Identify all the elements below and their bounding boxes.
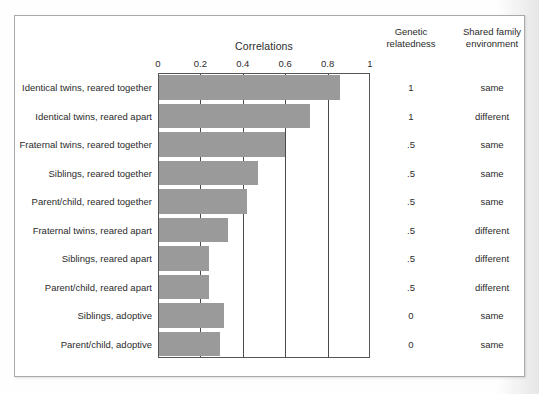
cell-shared-family-environment: different [452, 281, 532, 292]
chart-row: Fraternal twins, reared apart.5different [0, 216, 539, 245]
chart-row: Siblings, adoptive0same [0, 301, 539, 330]
column-header-genetic-relatedness: Genetic relatedness [373, 26, 449, 50]
cell-shared-family-environment: different [452, 253, 532, 264]
column-header-shared-line2: environment [452, 38, 532, 50]
cell-shared-family-environment: same [452, 196, 532, 207]
chart-row: Siblings, reared apart.5different [0, 244, 539, 273]
row-label: Siblings, reared apart [16, 253, 152, 264]
row-label: Siblings, adoptive [16, 310, 152, 321]
cell-genetic-relatedness: 0 [373, 338, 449, 349]
chart-row: Parent/child, reared together.5same [0, 187, 539, 216]
cell-genetic-relatedness: .5 [373, 196, 449, 207]
chart-row: Identical twins, reared together1same [0, 73, 539, 102]
chart-row: Siblings, reared together.5same [0, 159, 539, 188]
cell-shared-family-environment: different [452, 224, 532, 235]
bar [159, 303, 224, 328]
column-header-shared-family-environment: Shared family environment [452, 26, 532, 50]
row-label: Fraternal twins, reared together [16, 139, 152, 150]
column-header-shared-line1: Shared family [452, 26, 532, 38]
bar-track [159, 189, 369, 214]
cell-shared-family-environment: same [452, 167, 532, 178]
bar [159, 332, 220, 357]
bar-track [159, 246, 369, 271]
chart-row: Fraternal twins, reared together.5same [0, 130, 539, 159]
cell-genetic-relatedness: .5 [373, 167, 449, 178]
x-axis-tick-0_4: 0.4 [236, 58, 249, 69]
x-axis-tick-0_2: 0.2 [194, 58, 207, 69]
row-label: Parent/child, reared together [16, 196, 152, 207]
x-axis-tick-0: 0 [155, 58, 160, 69]
chart-rows: Identical twins, reared together1sameIde… [0, 73, 539, 358]
chart-row: Identical twins, reared apart1different [0, 102, 539, 131]
bar [159, 132, 285, 157]
bar-track [159, 161, 369, 186]
bar [159, 189, 247, 214]
bar-track [159, 132, 369, 157]
cell-shared-family-environment: same [452, 139, 532, 150]
bar [159, 161, 258, 186]
bar-track [159, 332, 369, 357]
column-header-genetic-line2: relatedness [373, 38, 449, 50]
row-label: Identical twins, reared together [16, 82, 152, 93]
cell-shared-family-environment: same [452, 338, 532, 349]
cell-genetic-relatedness: .5 [373, 224, 449, 235]
chart-title: Correlations [158, 40, 370, 52]
row-label: Parent/child, adoptive [16, 338, 152, 349]
row-label: Siblings, reared together [16, 167, 152, 178]
bar-track [159, 104, 369, 129]
row-label: Identical twins, reared apart [16, 110, 152, 121]
cell-genetic-relatedness: 0 [373, 310, 449, 321]
row-label: Parent/child, reared apart [16, 281, 152, 292]
bar [159, 218, 228, 243]
cell-shared-family-environment: different [452, 110, 532, 121]
bar [159, 275, 209, 300]
cell-genetic-relatedness: .5 [373, 253, 449, 264]
bar [159, 75, 340, 100]
row-label: Fraternal twins, reared apart [16, 224, 152, 235]
x-axis-tick-1: 1 [367, 58, 372, 69]
bar-track [159, 218, 369, 243]
bar-track [159, 275, 369, 300]
x-axis-tick-0_6: 0.6 [279, 58, 292, 69]
chart-row: Parent/child, adoptive0same [0, 330, 539, 359]
cell-genetic-relatedness: 1 [373, 82, 449, 93]
x-axis-tick-0_8: 0.8 [321, 58, 334, 69]
bar-track [159, 75, 369, 100]
x-axis-tick-labels: 00.20.40.60.81 [158, 58, 370, 72]
column-header-genetic-line1: Genetic [373, 26, 449, 38]
bar [159, 246, 209, 271]
cell-shared-family-environment: same [452, 82, 532, 93]
bar-track [159, 303, 369, 328]
chart-row: Parent/child, reared apart.5different [0, 273, 539, 302]
bar [159, 104, 310, 129]
cell-genetic-relatedness: 1 [373, 110, 449, 121]
cell-genetic-relatedness: .5 [373, 281, 449, 292]
cell-genetic-relatedness: .5 [373, 139, 449, 150]
cell-shared-family-environment: same [452, 310, 532, 321]
